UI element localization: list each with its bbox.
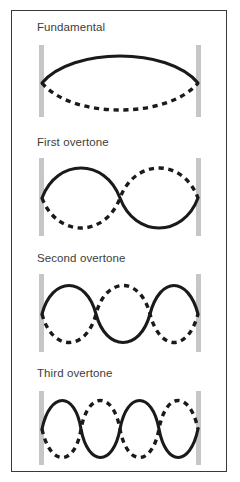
standing-wave-diagram-first-overtone bbox=[12, 154, 228, 242]
wave-curve-solid bbox=[42, 286, 198, 343]
wave-curve-solid bbox=[42, 56, 198, 83]
wave-area-first-overtone bbox=[12, 154, 228, 242]
standing-wave-diagram-second-overtone bbox=[12, 270, 228, 358]
wave-curve-dashed bbox=[42, 401, 198, 458]
figure-frame: Fundamental First overtone Second overto… bbox=[11, 10, 227, 472]
standing-wave-diagram-fundamental bbox=[12, 39, 228, 123]
wave-area-fundamental bbox=[12, 39, 228, 123]
panel-fundamental: Fundamental bbox=[12, 17, 228, 125]
panel-second-overtone: Second overtone bbox=[12, 248, 228, 360]
wave-curve-dashed bbox=[42, 286, 198, 343]
wave-curve-solid bbox=[42, 168, 198, 228]
wave-area-second-overtone bbox=[12, 270, 228, 358]
wave-curve-dashed bbox=[42, 83, 198, 110]
panel-third-overtone: Third overtone bbox=[12, 363, 228, 475]
panel-first-overtone: First overtone bbox=[12, 132, 228, 244]
standing-wave-diagram-third-overtone bbox=[12, 385, 228, 473]
panel-label-first-overtone: First overtone bbox=[37, 136, 109, 149]
panel-label-third-overtone: Third overtone bbox=[37, 367, 113, 380]
panel-label-second-overtone: Second overtone bbox=[37, 252, 125, 265]
panel-label-fundamental: Fundamental bbox=[37, 21, 105, 34]
wave-area-third-overtone bbox=[12, 385, 228, 473]
